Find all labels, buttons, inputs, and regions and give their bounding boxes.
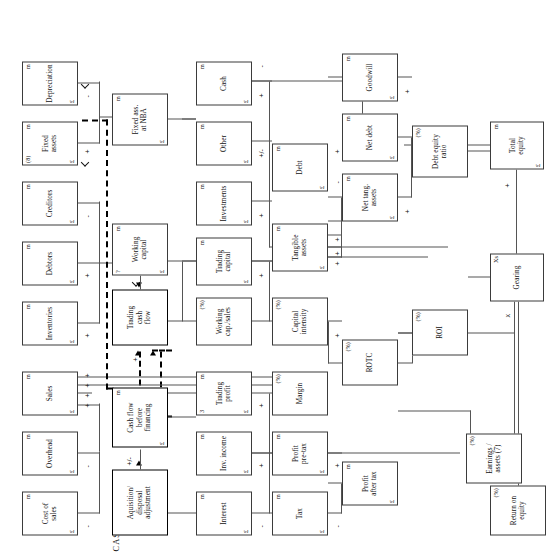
node-sales[interactable]: Salesm£ xyxy=(22,371,78,415)
connector-line xyxy=(328,321,329,363)
connector-line xyxy=(468,332,514,333)
node-label: Capital intensity xyxy=(292,308,309,334)
connector-line xyxy=(252,260,272,261)
node-ref-marker: 3 xyxy=(199,409,205,412)
node-interest[interactable]: Interestm£ xyxy=(196,491,252,535)
node-label: Aquisition/ disposal adjustment xyxy=(127,485,152,518)
node-depreciation[interactable]: Depreciationm£ xyxy=(22,61,78,105)
node-cost_of_sales[interactable]: Cost of salesm£ xyxy=(22,491,78,535)
connector-line xyxy=(328,482,342,483)
node-margin[interactable]: Margin(%) xyxy=(272,371,328,415)
connector-line xyxy=(398,196,412,197)
node-label: Other xyxy=(220,135,228,152)
connector-line xyxy=(398,136,412,137)
node-inv_income[interactable]: Inv. incomem£ xyxy=(196,431,252,475)
flow-arrow-icon xyxy=(135,350,141,355)
node-gearing[interactable]: GearingXs xyxy=(490,253,544,301)
node-unit-currency: £ xyxy=(243,159,249,162)
node-acq_disp[interactable]: Aquisition/ disposal adjustment xyxy=(112,469,168,535)
operator-sign: + xyxy=(334,251,341,255)
node-profit_after_tax[interactable]: Profit after taxm£ xyxy=(342,461,398,505)
node-cash_flow_bf[interactable]: Cash flow before financingm£ xyxy=(112,387,168,447)
node-label: Tax xyxy=(296,508,304,519)
operator-sign: - xyxy=(258,525,265,527)
node-capital_intensity[interactable]: Capital intensity(%) xyxy=(272,297,328,345)
node-label: Profit after tax xyxy=(362,471,379,496)
node-label: Depreciation xyxy=(46,64,54,102)
operator-sign: + xyxy=(84,403,91,407)
node-fixed_assets[interactable]: Fixed assetsm£(8) xyxy=(22,121,78,165)
node-unit-currency: £ xyxy=(243,219,249,222)
node-working_cap_sales[interactable]: Working cap./sales(%) xyxy=(196,297,252,345)
node-total_equity[interactable]: Total equitym£ xyxy=(490,121,544,169)
node-label: Goodwill xyxy=(366,63,374,91)
node-label: Interest xyxy=(220,502,228,524)
connector-line xyxy=(468,276,490,277)
node-label: Overhead xyxy=(46,439,54,468)
node-investments[interactable]: Investmentsm£ xyxy=(196,181,252,225)
connector-line xyxy=(269,81,270,247)
node-cash[interactable]: Cashm£ xyxy=(196,61,252,105)
node-unit-millions: (%) xyxy=(275,374,281,384)
node-roi[interactable]: ROI(%) xyxy=(412,309,468,355)
connector-line xyxy=(182,260,196,261)
operator-sign: + xyxy=(334,261,341,265)
operator-sign: + xyxy=(84,333,91,337)
node-other[interactable]: Otherm£ xyxy=(196,121,252,165)
node-tax[interactable]: Taxm£ xyxy=(272,491,328,535)
node-unit-millions: Xs xyxy=(493,256,499,263)
node-unit-millions: m xyxy=(25,374,31,379)
connector-line xyxy=(99,116,113,117)
connector-line xyxy=(398,362,412,363)
node-label: Creditors xyxy=(46,189,54,217)
node-debt_equity_ratio[interactable]: Debt equity ratio(%) xyxy=(412,125,468,177)
node-unit-millions: m xyxy=(25,494,31,499)
node-label: Debt equity ratio xyxy=(432,134,449,169)
node-tangible_assets[interactable]: Tangible assetsm£ xyxy=(272,223,328,271)
connector-line xyxy=(398,332,412,333)
node-working_capital[interactable]: Working capitalm£? xyxy=(112,223,168,275)
connector-line xyxy=(168,416,196,417)
node-label: Inv. income xyxy=(220,436,228,471)
operator-sign: +/- xyxy=(126,457,133,465)
node-ref-marker: (8) xyxy=(25,155,31,163)
node-unit-currency: £ xyxy=(69,469,75,472)
node-debt[interactable]: Debtm£ xyxy=(272,143,328,191)
node-fixed_ass_nba[interactable]: Fixed ass. at NBAm£ xyxy=(112,93,168,145)
node-label: Debtors xyxy=(46,251,54,274)
node-trading_cash_flow[interactable]: Trading cash flow xyxy=(112,289,168,345)
node-trading_capital[interactable]: Trading capitalm£ xyxy=(196,237,252,285)
node-inventories[interactable]: Inventoriesm£ xyxy=(22,301,78,345)
node-earnings_assets[interactable]: Earnings / assets (7)(%) xyxy=(466,433,522,483)
operator-sign: + xyxy=(404,89,411,93)
node-unit-millions: m xyxy=(345,176,351,181)
node-profit_pre_tax[interactable]: Profit pre-taxm£ xyxy=(272,431,328,475)
node-unit-currency: £ xyxy=(319,529,325,532)
node-net_tang_assets[interactable]: Net tang. assetsm£ xyxy=(342,173,398,221)
node-label: Margin xyxy=(296,382,304,404)
node-unit-currency: £ xyxy=(69,219,75,222)
node-unit-millions: m xyxy=(115,96,121,101)
node-unit-millions: m xyxy=(25,304,31,309)
node-return_on_equity[interactable]: Return on equity(%) xyxy=(490,485,546,535)
node-rotc[interactable]: ROTC(%) xyxy=(342,339,398,385)
node-unit-millions: m xyxy=(199,64,205,69)
connector-line-dashed xyxy=(106,119,108,389)
operator-sign: + xyxy=(258,93,265,97)
node-goodwill[interactable]: Goodwillm£ xyxy=(342,53,398,101)
connector-line xyxy=(404,76,412,77)
connector-line xyxy=(328,220,342,221)
node-net_debt[interactable]: Net debtm£ xyxy=(342,113,398,161)
node-label: ROI xyxy=(436,326,444,339)
node-creditors[interactable]: Creditorsm£ xyxy=(22,181,78,225)
node-trading_profit[interactable]: Trading profitm£3 xyxy=(196,371,252,415)
node-debtors[interactable]: Debtorsm£ xyxy=(22,241,78,285)
operator-sign: - xyxy=(258,65,265,67)
operator-sign: + xyxy=(404,209,411,213)
node-label: Cash xyxy=(220,76,228,91)
node-overhead[interactable]: Overheadm£ xyxy=(22,431,78,475)
connector-line xyxy=(398,410,470,411)
flow-arrow-icon xyxy=(150,350,156,355)
operator-sign: + xyxy=(334,237,341,241)
node-unit-millions: m xyxy=(115,390,121,395)
